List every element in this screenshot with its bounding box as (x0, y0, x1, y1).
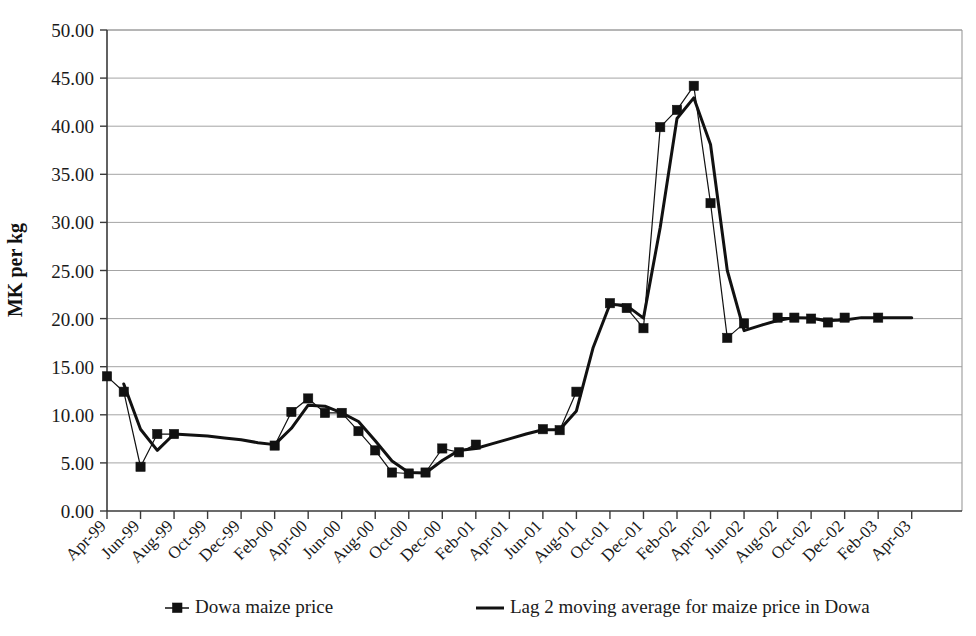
y-tick-label: 15.00 (51, 357, 94, 378)
data-point-marker (454, 448, 463, 457)
data-series-group (107, 86, 912, 474)
data-point-marker (354, 427, 363, 436)
data-point-marker (538, 425, 547, 434)
data-point-marker (807, 314, 816, 323)
y-axis-title-group: MK per kg (4, 223, 27, 317)
data-point-marker (622, 303, 631, 312)
y-tick-label: 40.00 (51, 116, 94, 137)
data-markers-group (102, 81, 882, 478)
y-tick-label: 20.00 (51, 309, 94, 330)
series-line-0 (543, 392, 577, 430)
data-point-marker (840, 313, 849, 322)
data-point-marker (723, 333, 732, 342)
data-point-marker (371, 446, 380, 455)
legend-label: Dowa maize price (195, 596, 333, 617)
data-point-marker (169, 429, 178, 438)
chart-container: 0.005.0010.0015.0020.0025.0030.0035.0040… (0, 0, 976, 636)
y-axis-title: MK per kg (4, 223, 27, 317)
maize-price-line-chart: 0.005.0010.0015.0020.0025.0030.0035.0040… (0, 0, 976, 636)
data-point-marker (102, 372, 111, 381)
chart-legend: Dowa maize priceLag 2 moving average for… (165, 596, 870, 617)
legend-swatch-marker (173, 603, 183, 613)
data-point-marker (823, 318, 832, 327)
x-axis-ticks-group: Apr-99Jun-99Aug-99Oct-99Dec-99Feb-00Apr-… (62, 511, 915, 567)
data-point-marker (304, 394, 313, 403)
y-tick-label: 30.00 (51, 212, 94, 233)
data-point-marker (706, 199, 715, 208)
data-point-marker (404, 469, 413, 478)
data-point-marker (387, 468, 396, 477)
x-tick-label: Apr-99 (62, 516, 110, 564)
y-tick-label: 5.00 (61, 453, 94, 474)
data-point-marker (605, 299, 614, 308)
y-tick-label: 25.00 (51, 261, 94, 282)
data-point-marker (136, 462, 145, 471)
y-tick-label: 0.00 (61, 501, 94, 522)
data-point-marker (287, 407, 296, 416)
data-point-marker (656, 123, 665, 132)
data-point-marker (773, 313, 782, 322)
data-point-marker (874, 313, 883, 322)
y-tick-label: 45.00 (51, 68, 94, 89)
data-point-marker (689, 81, 698, 90)
data-point-marker (153, 429, 162, 438)
data-point-marker (320, 408, 329, 417)
gridlines-group (107, 30, 962, 463)
data-point-marker (739, 319, 748, 328)
data-point-marker (119, 387, 128, 396)
y-axis-ticks-group: 0.005.0010.0015.0020.0025.0030.0035.0040… (51, 20, 107, 522)
data-point-marker (438, 444, 447, 453)
data-point-marker (572, 387, 581, 396)
data-point-marker (270, 441, 279, 450)
y-tick-label: 35.00 (51, 164, 94, 185)
y-tick-label: 10.00 (51, 405, 94, 426)
y-tick-label: 50.00 (51, 20, 94, 41)
data-point-marker (639, 324, 648, 333)
data-point-marker (672, 105, 681, 114)
legend-label: Lag 2 moving average for maize price in … (510, 596, 870, 617)
series-line-0 (107, 376, 174, 466)
series-line-1 (124, 98, 912, 473)
data-point-marker (337, 408, 346, 417)
data-point-marker (421, 468, 430, 477)
data-point-marker (790, 313, 799, 322)
data-point-marker (471, 440, 480, 449)
data-point-marker (555, 426, 564, 435)
